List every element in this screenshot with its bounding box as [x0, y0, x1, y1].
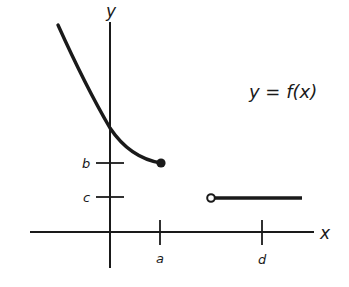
y-tick-label-c: c	[83, 190, 90, 205]
x-axis-label: x	[319, 223, 331, 243]
closed-endpoint-dot	[156, 158, 165, 167]
x-tick-label-d: d	[258, 252, 267, 267]
function-graph: y x b c a d y = f(x)	[0, 0, 349, 287]
x-tick-label-a: a	[156, 251, 164, 266]
y-axis-label: y	[105, 1, 117, 21]
open-endpoint-dot	[207, 194, 215, 202]
function-label: y = f(x)	[248, 81, 317, 102]
y-tick-label-b: b	[82, 156, 90, 171]
